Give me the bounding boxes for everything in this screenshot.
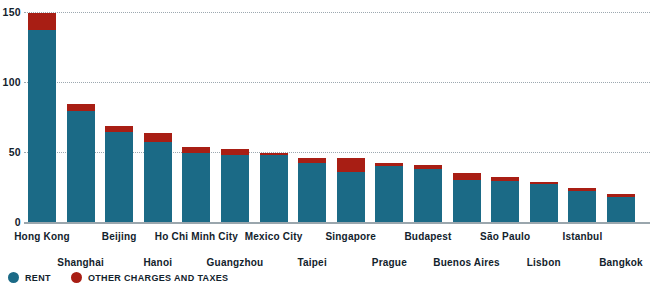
bar-segment-rent	[414, 169, 442, 222]
chart-legend: RENTOTHER CHARGES AND TAXES	[8, 272, 242, 283]
bar-group[interactable]	[105, 126, 133, 222]
bar-segment-rent	[568, 191, 596, 222]
bar-segment-rent	[453, 180, 481, 222]
bar-segment-rent	[337, 172, 365, 222]
bar-group[interactable]	[530, 182, 558, 222]
bar-group[interactable]	[607, 194, 635, 222]
bar-group[interactable]	[221, 149, 249, 222]
x-axis-label-hong-kong: Hong Kong	[0, 231, 85, 243]
x-axis-label-shanghai: Shanghai	[38, 257, 124, 269]
y-axis-tick-100: 100	[3, 76, 21, 88]
legend-item[interactable]: OTHER CHARGES AND TAXES	[71, 272, 229, 283]
bar-segment-rent	[607, 197, 635, 222]
bar-group[interactable]	[568, 188, 596, 222]
bar-segment-rent	[298, 163, 326, 222]
bar-segment-other-charges	[453, 173, 481, 180]
bar-segment-rent	[260, 155, 288, 222]
bar-segment-rent	[105, 132, 133, 222]
x-axis-label-beijing: Beijing	[76, 231, 162, 243]
x-axis-label-singapore: Singapore	[308, 231, 394, 243]
bar-segment-other-charges	[144, 133, 172, 142]
bar-segment-other-charges	[337, 158, 365, 172]
x-axis-label-s-o-paulo: São Paulo	[462, 231, 548, 243]
bar-segment-rent	[144, 142, 172, 222]
bar-segment-rent	[182, 153, 210, 222]
x-axis-label-lisbon: Lisbon	[501, 257, 587, 269]
x-axis-label-mexico-city: Mexico City	[231, 231, 317, 243]
legend-item[interactable]: RENT	[8, 272, 51, 283]
bar-group[interactable]	[375, 163, 403, 222]
x-axis-label-ho-chi-minh-city: Ho Chi Minh City	[153, 231, 239, 243]
bar-series-container	[24, 0, 650, 226]
bar-segment-other-charges	[28, 13, 56, 30]
bar-group[interactable]	[337, 158, 365, 222]
x-axis-label-buenos-aires: Buenos Aires	[424, 257, 510, 269]
bar-group[interactable]	[144, 133, 172, 222]
x-axis-label-guangzhou: Guangzhou	[192, 257, 278, 269]
legend-label: OTHER CHARGES AND TAXES	[88, 273, 229, 283]
bar-group[interactable]	[491, 177, 519, 222]
bar-group[interactable]	[414, 165, 442, 222]
y-axis-tick-50: 50	[9, 146, 21, 158]
bar-group[interactable]	[67, 104, 95, 222]
x-axis-label-hanoi: Hanoi	[115, 257, 201, 269]
x-axis-label-prague: Prague	[346, 257, 432, 269]
bar-segment-rent	[375, 166, 403, 222]
x-axis-label-istanbul: Istanbul	[539, 231, 625, 243]
bar-group[interactable]	[453, 173, 481, 222]
x-axis-labels: Hong KongShanghaiBeijingHanoiHo Chi Minh…	[24, 226, 650, 270]
x-axis-label-taipei: Taipei	[269, 257, 355, 269]
legend-swatch-icon	[8, 272, 19, 283]
bar-segment-rent	[67, 111, 95, 222]
bar-group[interactable]	[298, 158, 326, 222]
bar-group[interactable]	[182, 147, 210, 222]
legend-swatch-icon	[71, 272, 82, 283]
y-axis: 050100150	[0, 0, 24, 226]
x-axis-label-bangkok: Bangkok	[578, 257, 650, 269]
bar-segment-rent	[221, 155, 249, 222]
bar-group[interactable]	[28, 13, 56, 222]
bar-segment-rent	[530, 184, 558, 222]
bar-group[interactable]	[260, 153, 288, 222]
bar-segment-rent	[491, 181, 519, 222]
bar-chart: 050100150 Hong KongShanghaiBeijingHanoiH…	[0, 0, 650, 294]
y-axis-tick-0: 0	[15, 216, 21, 228]
bar-segment-other-charges	[67, 104, 95, 111]
x-axis-label-budapest: Budapest	[385, 231, 471, 243]
legend-label: RENT	[25, 273, 51, 283]
bar-segment-rent	[28, 30, 56, 222]
plot-area	[24, 0, 650, 226]
y-axis-tick-150: 150	[3, 6, 21, 18]
